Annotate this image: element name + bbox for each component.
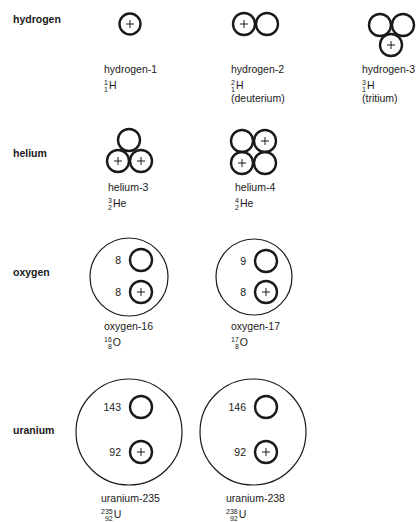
neutron-icon [254,152,276,174]
oxygen-16-nucleus [90,238,168,316]
neutron-icon [231,130,253,152]
neutron-icon [130,249,152,271]
plus-icon [137,288,145,296]
proton-count: 92 [234,446,246,458]
neutron-icon [369,14,391,36]
row-label-helium: helium [13,147,47,159]
isotope-label-uranium-238: uranium-238 23892U [226,493,285,522]
nucleus-outline [76,379,182,485]
neutron-icon [130,396,152,418]
neutron-icon [255,396,277,418]
uranium-235-nucleus [76,379,182,485]
nuclide-symbol: 11H [104,79,117,93]
hydrogen-3-nucleus [369,14,414,56]
proton-count: 8 [115,286,121,298]
oxygen-17-nucleus [216,239,292,315]
nuclide-symbol: 32He [108,197,126,211]
nucleus-outline [90,238,168,316]
plus-icon [240,20,248,28]
nuclide-symbol: 42He [235,197,253,211]
nuclide-symbol: 21H [231,79,244,93]
plus-icon [261,137,269,145]
isotope-label-hydrogen-1: hydrogen-1 11H [104,64,157,93]
row-label-uranium: uranium [13,424,54,436]
plus-icon [137,448,145,456]
isotope-label-helium-3: helium-3 32He [108,182,148,211]
isotope-label-helium-4: helium-4 42He [235,182,275,211]
neutron-icon [118,129,140,151]
isotope-label-hydrogen-3: hydrogen-3 31H (tritium) [362,64,415,104]
plus-icon [137,157,145,165]
nuclide-symbol: 178O [231,336,248,350]
isotope-label-hydrogen-2: hydrogen-2 21H (deuterium) [231,64,285,104]
neutron-icon [256,13,278,35]
neutron-count: 143 [103,401,121,413]
uranium-238-nucleus [200,379,306,485]
row-label-hydrogen: hydrogen [13,13,61,25]
isotope-label-oxygen-16: oxygen-16 168O [104,321,153,350]
neutron-count: 146 [228,401,246,413]
isotope-label-uranium-235: uranium-235 23592U [101,493,160,522]
isotope-label-oxygen-17: oxygen-17 178O [231,321,280,350]
plus-icon [114,157,122,165]
proton-count: 8 [240,286,246,298]
nuclide-symbol: 31H [362,79,375,93]
plus-icon [387,41,395,49]
nuclide-symbol: 23892U [226,508,246,522]
plus-icon [126,20,134,28]
nuclide-symbol: 23592U [101,508,121,522]
nucleus-outline [216,239,292,315]
nuclide-symbol: 168O [104,336,121,350]
neutron-icon [392,14,414,36]
helium-4-nucleus [231,130,276,174]
helium-3-nucleus [107,129,152,172]
neutron-count: 8 [115,254,121,266]
hydrogen-2-nucleus [233,13,278,35]
plus-icon [262,288,270,296]
isotope-diagram: 8 8 9 8 143 92 146 92 [0,0,420,522]
plus-icon [262,448,270,456]
plus-icon [238,159,246,167]
proton-count: 92 [109,446,121,458]
nucleus-outline [200,379,306,485]
neutron-count: 9 [240,255,246,267]
row-label-oxygen: oxygen [13,266,50,278]
neutron-icon [255,250,277,272]
